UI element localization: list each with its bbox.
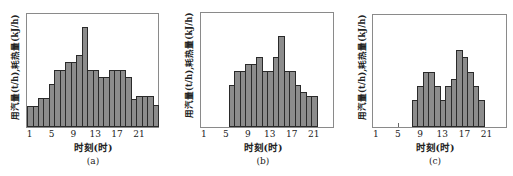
x-tick-label: 5 (395, 129, 401, 139)
x-axis-tick-mark (398, 123, 399, 127)
y-axis-label: 用汽量(t/h),耗热量(kJ/h) (355, 15, 367, 120)
x-tick-label: 17 (459, 129, 470, 139)
x-tick-label: 9 (417, 129, 423, 139)
x-tick-label: 21 (481, 129, 492, 139)
x-axis-label: 时刻(时) (416, 140, 455, 154)
bar-hour-20 (478, 100, 485, 128)
x-tick-label: 1 (373, 129, 379, 139)
chart-panel-c: 用汽量(t/h),耗热量(kJ/h) 159131721 时刻(时) (c) (0, 0, 513, 176)
panel-caption: (c) (429, 156, 441, 166)
plot-frame (372, 14, 507, 128)
x-tick-label: 13 (437, 129, 448, 139)
